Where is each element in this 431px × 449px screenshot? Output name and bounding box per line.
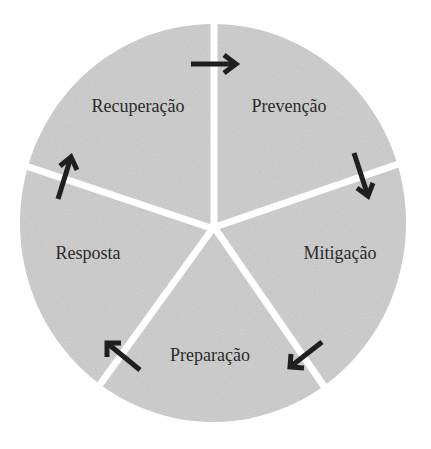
label-recuperacao: Recuperação	[92, 96, 185, 116]
disaster-cycle-diagram: Prevenção Mitigação Preparação Resposta …	[0, 0, 431, 449]
label-preparacao: Preparação	[170, 345, 250, 365]
label-mitigacao: Mitigação	[304, 243, 377, 263]
label-resposta: Resposta	[56, 243, 121, 263]
label-prevencao: Prevenção	[252, 96, 327, 116]
